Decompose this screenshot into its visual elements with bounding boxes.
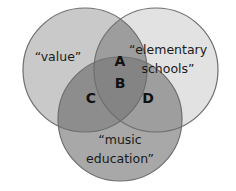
venn-region-label-B: B bbox=[115, 75, 126, 91]
set-label-value: “value” bbox=[35, 49, 82, 64]
venn-region-label-A: A bbox=[115, 53, 126, 69]
venn-region-label-C: C bbox=[86, 90, 96, 106]
set-label-elementary-schools-line2: schools” bbox=[141, 61, 194, 76]
set-label-music-education-line1: “music bbox=[98, 132, 142, 147]
venn-diagram: “value” “elementary schools” “music educ… bbox=[0, 0, 236, 191]
venn-diagram-canvas: “value” “elementary schools” “music educ… bbox=[0, 0, 236, 191]
set-label-elementary-schools-line1: “elementary bbox=[129, 42, 208, 57]
set-label-music-education-line2: education” bbox=[86, 151, 154, 166]
venn-region-label-D: D bbox=[142, 90, 154, 106]
